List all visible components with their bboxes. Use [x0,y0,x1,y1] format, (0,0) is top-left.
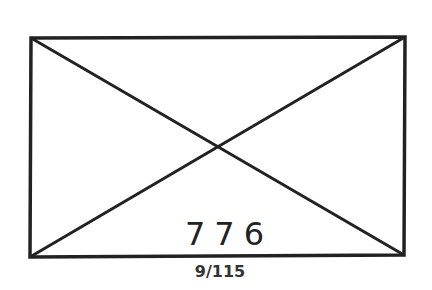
main-number-label: 776 [170,216,279,252]
page-reference-label: 9/115 [180,262,260,282]
